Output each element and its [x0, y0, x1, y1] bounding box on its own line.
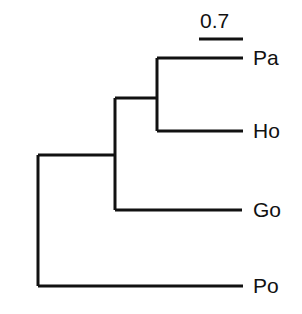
tip-label-po: Po	[253, 275, 279, 296]
phylogenetic-tree-figure: 0.7 Pa Ho Go Po	[0, 0, 302, 314]
tip-label-ho: Ho	[253, 120, 280, 141]
tip-label-go: Go	[253, 199, 281, 220]
tip-label-pa: Pa	[253, 47, 279, 68]
scale-bar-label: 0.7	[200, 10, 229, 31]
branch-layer	[38, 58, 243, 286]
